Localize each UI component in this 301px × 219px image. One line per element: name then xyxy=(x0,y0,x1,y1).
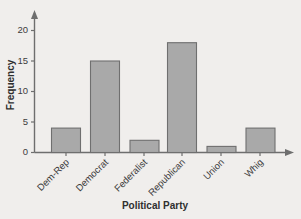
y-tick-label-15: 15 xyxy=(17,55,28,66)
bar-republican xyxy=(168,43,197,153)
bar-chart-figure: 0 5 10 15 20 Dem-Rep Democrat Federalis xyxy=(0,0,301,219)
y-tick-label-0: 0 xyxy=(23,146,28,157)
y-tick-label-10: 10 xyxy=(17,85,28,96)
bar-dem-rep xyxy=(52,128,81,152)
y-tick-label-5: 5 xyxy=(23,116,28,127)
x-axis-title: Political Party xyxy=(122,200,189,211)
bar-federalist xyxy=(130,140,159,152)
y-axis-title: Frequency xyxy=(5,59,16,110)
bar-whig xyxy=(246,128,275,152)
chart-canvas: 0 5 10 15 20 Dem-Rep Democrat Federalis xyxy=(0,0,301,219)
bar-democrat xyxy=(91,61,120,153)
y-tick-label-20: 20 xyxy=(17,24,28,35)
bar-union xyxy=(207,146,236,152)
